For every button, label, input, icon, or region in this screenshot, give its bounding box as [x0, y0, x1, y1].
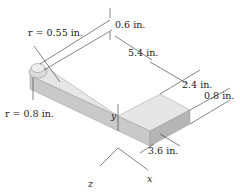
label-r-small: r = 0.55 in.	[28, 27, 83, 38]
label-r-large: r = 0.8 in.	[5, 108, 54, 119]
axis-y-label: y	[110, 110, 117, 121]
label-dim-2-4: 2.4 in.	[182, 79, 212, 90]
label-dim-5-4: 5.4 in.	[128, 47, 158, 58]
diagram-canvas: r = 0.55 in. r = 0.8 in. 0.6 in. 5.4 in.…	[0, 0, 240, 193]
label-dim-0-6: 0.6 in.	[115, 19, 145, 30]
label-dim-3-6: 3.6 in.	[148, 145, 178, 156]
axis-x-label: x	[147, 173, 153, 184]
l-plate	[29, 64, 190, 147]
axis-z-label: z	[87, 178, 94, 189]
label-dim-0-8: 0.8 in.	[204, 90, 234, 101]
